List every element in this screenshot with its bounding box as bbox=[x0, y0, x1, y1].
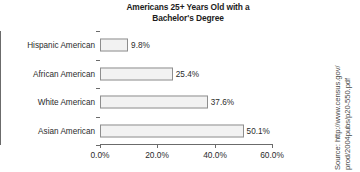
bar-hispanic-american bbox=[100, 39, 128, 52]
bar-row: Hispanic American 9.8% bbox=[100, 31, 272, 60]
bar-value-white-american: 37.6% bbox=[211, 98, 234, 107]
y-axis-line bbox=[0, 31, 1, 145]
category-label-hispanic-american: Hispanic American bbox=[27, 41, 95, 50]
x-tick-label-60: 60.0% bbox=[260, 150, 284, 160]
bar-row: African American 25.4% bbox=[100, 60, 272, 89]
bar-row: White American 37.6% bbox=[100, 88, 272, 117]
bar-chart-figure: Americans 25+ Years Old with a Bachelor'… bbox=[0, 0, 360, 172]
bar-row: Asian American 50.1% bbox=[100, 117, 272, 146]
y-tick-mark bbox=[96, 117, 100, 118]
x-tick-mark-40 bbox=[215, 144, 216, 148]
y-tick-mark bbox=[96, 60, 100, 61]
source-note: Source: http://www.census.gov/ prod/2004… bbox=[330, 0, 360, 172]
category-label-asian-american: Asian American bbox=[38, 126, 95, 135]
bar-value-asian-american: 50.1% bbox=[247, 126, 270, 135]
category-label-white-american: White American bbox=[38, 98, 95, 107]
bar-african-american bbox=[100, 67, 173, 80]
source-note-line-2: prod/2004pubs/p20-550.pdf bbox=[343, 78, 352, 170]
y-tick-mark bbox=[96, 31, 100, 32]
x-tick-mark-20 bbox=[157, 144, 158, 148]
y-tick-mark bbox=[96, 88, 100, 89]
category-label-african-american: African American bbox=[33, 69, 95, 78]
chart-title-line-1: Americans 25+ Years Old with a bbox=[88, 2, 288, 13]
bar-value-hispanic-american: 9.8% bbox=[131, 41, 150, 50]
x-tick-label-0: 0.0% bbox=[90, 150, 109, 160]
x-tick-mark-60 bbox=[272, 144, 273, 148]
bar-asian-american bbox=[100, 124, 244, 137]
x-tick-label-20: 20.0% bbox=[145, 150, 169, 160]
bar-white-american bbox=[100, 96, 208, 109]
chart-title-line-2: Bachelor's Degree bbox=[88, 13, 288, 24]
bar-value-african-american: 25.4% bbox=[176, 69, 199, 78]
plot-area: Hispanic American 9.8% African American … bbox=[100, 31, 272, 145]
x-tick-label-40: 40.0% bbox=[203, 150, 227, 160]
chart-title: Americans 25+ Years Old with a Bachelor'… bbox=[88, 2, 288, 24]
x-tick-mark-0 bbox=[100, 144, 101, 148]
source-note-line-1: Source: http://www.census.gov/ bbox=[333, 66, 342, 170]
